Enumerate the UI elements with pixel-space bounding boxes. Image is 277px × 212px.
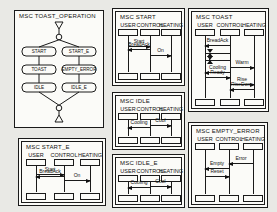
message-label: Ready	[205, 69, 230, 75]
arrowhead-icon	[250, 66, 255, 70]
message-label: Cool	[150, 178, 171, 184]
hmsc-node-label: START_E	[69, 49, 89, 54]
lifeline-end-box	[118, 195, 138, 202]
lifeline-label: HEATING	[154, 106, 188, 112]
lifeline-label: HEATING	[154, 168, 188, 174]
lifeline-end-box	[195, 99, 215, 106]
lifeline-end-box	[140, 73, 160, 80]
arrowhead-icon	[127, 126, 132, 130]
msc-frame: MSC START USERCONTROLHEATINGStartBreadAc…	[115, 11, 182, 83]
lifeline-end-box	[80, 193, 100, 200]
lifeline-icon	[253, 149, 254, 194]
arrowhead-icon	[167, 124, 172, 128]
arrowhead-icon	[204, 44, 209, 48]
arrowhead-icon	[167, 54, 172, 58]
lifeline-end-box	[244, 99, 264, 106]
msc-chart-toast: USERCONTROLHEATINGBreadAckWarmCoolingRea…	[194, 22, 263, 106]
hmsc-node-label: IDLE_E	[71, 85, 87, 90]
message-label: Cooling	[128, 179, 150, 185]
msc-title: MSC IDLE	[120, 98, 150, 104]
message-arrow: Cool	[150, 118, 171, 126]
timer-connector	[209, 53, 210, 60]
arrowhead-icon	[225, 175, 230, 179]
arrowhead-icon	[229, 88, 234, 92]
timer-hourglass-icon	[207, 56, 213, 64]
message-arrow: Ready	[205, 70, 230, 78]
lifeline-end-box	[220, 99, 240, 106]
hmsc-end-triangle-icon	[55, 115, 63, 122]
msc-frame: MSC START_E USERCONTROLHEATINGStartBread…	[21, 141, 103, 203]
message-label: BreadAck	[128, 41, 150, 47]
lifeline-label: HEATING	[73, 152, 107, 158]
msc-panel-idle-e: MSC IDLE_E USERCONTROLHEATINGCoolingCool	[112, 154, 185, 208]
msc-title: MSC TOAST	[196, 14, 233, 20]
msc-frame: MSC TOAST USERCONTROLHEATINGBreadAckWarm…	[191, 11, 266, 109]
lifeline-end-box	[140, 195, 160, 202]
message-arrow: Error	[229, 156, 253, 164]
lifeline-end-box	[26, 193, 46, 200]
message-label: BreadAck	[205, 37, 230, 43]
message-line	[36, 176, 64, 177]
arrowhead-icon	[35, 175, 40, 179]
lifeline-end-box	[161, 137, 181, 144]
lifeline-label: HEATING	[236, 136, 270, 142]
hmsc-branch-circle-icon	[56, 34, 62, 40]
msc-chart-idle-e: USERCONTROLHEATINGCoolingCool	[118, 168, 179, 202]
msc-chart-start: USERCONTROLHEATINGStartBreadAckOn	[118, 22, 179, 80]
hmsc-node-label: IDLE	[34, 85, 44, 90]
msc-title: MSC IDLE_E	[120, 160, 158, 166]
lifeline-end-box	[54, 193, 74, 200]
msc-title: MSC START_E	[26, 144, 70, 150]
message-label: On	[64, 172, 90, 178]
message-arrow: On	[64, 173, 90, 181]
hmsc-node-label: START	[32, 49, 47, 54]
msc-panel-empty-error: MSC EMPTY_ERROR USERCONTROLHEATINGErrorE…	[188, 122, 268, 208]
message-arrow: On	[150, 48, 171, 56]
message-arrow: Cool	[150, 179, 171, 187]
message-label: On	[150, 47, 171, 53]
lifeline-end-box	[118, 137, 138, 144]
arrowhead-icon	[86, 179, 91, 183]
arrowhead-icon	[167, 185, 172, 189]
hmsc-graph: START TOAST IDLE START_E EMPTY_ERROR IDL…	[15, 21, 103, 127]
msc-frame: MSC IDLE USERCONTROLHEATINGCoolCooling	[115, 95, 182, 147]
hmsc-panel: MSC TOAST_OPERATION	[14, 10, 104, 128]
msc-panel-start: MSC START USERCONTROLHEATINGStartBreadAc…	[112, 8, 185, 86]
message-label: Empty	[205, 160, 229, 166]
arrowhead-icon	[127, 48, 132, 52]
lifeline-end-box	[161, 73, 181, 80]
msc-frame: MSC IDLE_E USERCONTROLHEATINGCoolingCool	[115, 157, 182, 205]
hmsc-merge-circle-icon	[56, 105, 62, 111]
lifeline-end-box	[243, 195, 263, 202]
message-arrow: BreadAck	[36, 169, 64, 177]
hmsc-node-label: EMPTY_ERROR	[62, 67, 98, 72]
message-label: Reset	[205, 168, 229, 174]
message-label: BreadAck	[36, 168, 64, 174]
msc-frame: MSC EMPTY_ERROR USERCONTROLHEATINGErrorE…	[191, 125, 265, 205]
message-arrow: Warm	[230, 60, 254, 68]
message-arrow: RiseDone	[230, 82, 254, 90]
hmsc-title: MSC TOAST_OPERATION	[19, 13, 96, 19]
msc-panel-toast: MSC TOAST USERCONTROLHEATINGBreadAckWarm…	[188, 8, 269, 112]
message-arrow: Cooling	[128, 180, 150, 188]
message-label: Error	[229, 155, 253, 161]
message-label: Warm	[230, 59, 254, 65]
lifeline-end-box	[161, 195, 181, 202]
hmsc-start-triangle-icon	[55, 22, 63, 29]
msc-chart-empty-error: USERCONTROLHEATINGErrorEmptyReset	[194, 136, 262, 202]
figure-canvas: MSC TOAST_OPERATION	[0, 0, 277, 212]
message-label: Cool	[150, 117, 171, 123]
msc-chart-idle: USERCONTROLHEATINGCoolCooling	[118, 106, 179, 144]
message-label: RiseDone	[230, 81, 254, 87]
message-arrow: Cooling	[128, 120, 150, 128]
lifeline-end-box	[118, 73, 138, 80]
lifeline-end-box	[140, 137, 160, 144]
msc-title: MSC EMPTY_ERROR	[196, 128, 260, 134]
hmsc-node-label: TOAST	[31, 67, 46, 72]
msc-chart-start-e: USERCONTROLHEATINGStartBreadAckOn	[24, 152, 100, 200]
msc-title: MSC START	[120, 14, 156, 20]
lifeline-end-box	[219, 195, 239, 202]
lifeline-end-box	[195, 195, 215, 202]
msc-panel-start-e: MSC START_E USERCONTROLHEATINGStartBread…	[18, 138, 106, 206]
message-label: Cooling	[128, 119, 150, 125]
